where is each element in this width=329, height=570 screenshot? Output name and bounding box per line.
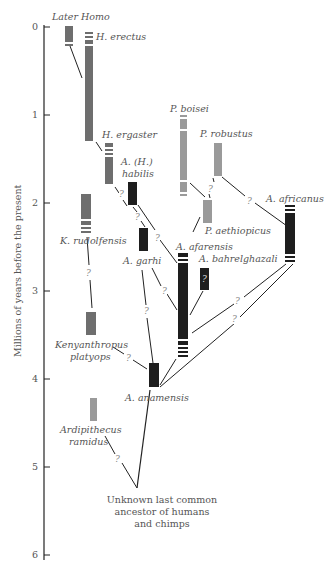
- bar-a-afarensis-tick5: [178, 351, 188, 353]
- uncertain-mark: ?: [155, 233, 160, 243]
- bar-k-rudolfensis-tick3: [81, 231, 91, 233]
- bar-later-homo-tick: [65, 44, 73, 46]
- lca-label: Unknown last common ancestor of humans a…: [97, 494, 227, 530]
- bar-ardipithecus-ramidus: [90, 398, 97, 421]
- uncertain-mark: ?: [144, 306, 149, 316]
- uncertain-mark: ?: [232, 314, 237, 324]
- label-kenyanthropus-line2: platyops: [70, 351, 111, 362]
- bar-p-robustus: [214, 143, 222, 176]
- label-h-erectus: H. erectus: [96, 31, 146, 42]
- bar-k-rudolfensis: [81, 194, 91, 219]
- bar-p-aethiopicus: [203, 200, 212, 223]
- axis-tick-3: 3: [24, 285, 38, 296]
- lca-line-3: and chimps: [97, 518, 227, 530]
- label-later-homo: Later Homo: [52, 11, 110, 22]
- label-ardipithecus-line2: ramidus: [69, 436, 108, 447]
- bar-a-afarensis-tick4: [178, 347, 188, 349]
- bar-p-boisei-tick1: [180, 115, 187, 117]
- bar-a-afarensis-tick3: [178, 341, 188, 345]
- bar-a-anamensis: [149, 363, 159, 387]
- bar-h-erectus-tick1: [85, 32, 93, 34]
- lca-line-2: ancestor of humans: [97, 506, 227, 518]
- bar-p-boisei-tick2: [180, 119, 187, 129]
- uncertain-mark: ?: [86, 268, 91, 278]
- label-h-ergaster: H. ergaster: [102, 129, 157, 140]
- label-p-robustus: P. robustus: [200, 128, 253, 139]
- axis-tick-6: 6: [24, 549, 38, 560]
- uncertain-mark: ?: [235, 296, 240, 306]
- hominin-phylogeny-diagram: 0 1 2 3 4 5 6 Millions of years before t…: [0, 0, 329, 570]
- bar-a-africanus: [285, 213, 295, 254]
- uncertain-mark: ?: [162, 286, 167, 296]
- connector-lines: [0, 0, 329, 570]
- label-p-boisei: P. boisei: [170, 103, 209, 114]
- label-a-habilis-line2: habilis: [122, 168, 154, 179]
- uncertain-mark: ?: [202, 274, 207, 284]
- bar-p-boisei: [180, 131, 187, 180]
- bar-a-afarensis-tick1: [178, 253, 188, 257]
- uncertain-mark: ?: [208, 184, 213, 194]
- bar-h-erectus-tick3: [85, 40, 93, 44]
- bar-a-africanus-tick3: [285, 256, 295, 258]
- bar-a-garhi: [139, 228, 148, 251]
- label-a-habilis-line1: A. (H.): [121, 156, 153, 167]
- bar-a-africanus-tick4: [285, 260, 295, 262]
- bar-h-ergaster: [105, 157, 113, 184]
- uncertain-mark: ?: [126, 353, 131, 363]
- bar-a-habilis: [128, 182, 137, 205]
- bar-k-rudolfensis-tick1: [81, 221, 91, 225]
- label-a-bahrelghazali: A. bahrelghazali: [199, 253, 278, 264]
- bar-later-homo: [65, 26, 73, 42]
- bar-a-africanus-tick1: [285, 205, 295, 207]
- lca-line-1: Unknown last common: [97, 494, 227, 506]
- label-p-aethiopicus: P. aethiopicus: [205, 225, 271, 236]
- label-a-garhi: A. garhi: [123, 255, 161, 266]
- label-a-afarensis: A. afarensis: [176, 241, 233, 252]
- axis-tick-2: 2: [24, 197, 38, 208]
- axis-tick-4: 4: [24, 373, 38, 384]
- label-ardipithecus-line1: Ardipithecus: [60, 424, 122, 435]
- bar-p-boisei-tick3: [180, 182, 187, 192]
- bar-h-ergaster-tick1: [105, 143, 113, 147]
- label-a-africanus: A. africanus: [266, 193, 324, 204]
- bar-h-ergaster-tick2: [105, 149, 113, 151]
- uncertain-mark: ?: [247, 196, 252, 206]
- bar-h-erectus: [85, 46, 93, 141]
- bar-h-ergaster-tick3: [105, 153, 113, 155]
- bar-h-erectus-tick2: [85, 36, 93, 38]
- uncertain-mark: ?: [119, 189, 124, 199]
- bar-k-rudolfensis-tick2: [81, 227, 91, 229]
- axis-tick-1: 1: [24, 109, 38, 120]
- bar-p-boisei-tick4: [180, 194, 187, 196]
- uncertain-mark: ?: [135, 212, 140, 222]
- axis-tick-0: 0: [24, 21, 38, 32]
- axis-tick-5: 5: [24, 461, 38, 472]
- bar-a-afarensis: [178, 263, 188, 339]
- bar-a-africanus-tick2: [285, 209, 295, 211]
- uncertain-mark: ?: [115, 454, 120, 464]
- label-a-anamensis: A. anamensis: [125, 392, 189, 403]
- label-kenyanthropus-line1: Kenyanthropus: [55, 339, 128, 350]
- label-k-rudolfensis: K. rudolfensis: [60, 235, 127, 246]
- bar-a-afarensis-tick6: [178, 355, 188, 357]
- bar-a-afarensis-tick2: [178, 259, 188, 261]
- bar-kenyanthropus-platyops: [86, 312, 96, 335]
- y-axis-label: Millions of years before the present: [12, 185, 23, 357]
